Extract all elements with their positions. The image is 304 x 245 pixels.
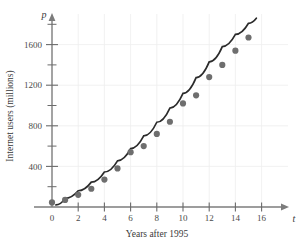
regression-curve (56, 18, 256, 205)
data-point (193, 92, 199, 98)
y-tick-label: 1200 (24, 80, 43, 90)
gridlines (52, 14, 288, 207)
data-point (88, 186, 94, 192)
y-axis-title: Internet users (millions) (5, 70, 16, 161)
data-point (154, 131, 160, 137)
data-point (101, 176, 107, 182)
data-points (49, 34, 252, 205)
data-point (114, 165, 120, 171)
x-tick-label: 8 (155, 213, 160, 223)
x-tick-label: 4 (102, 213, 107, 223)
data-point (128, 149, 134, 155)
data-point (62, 197, 68, 203)
x-tick-label: 6 (128, 213, 133, 223)
x-tick-label: 12 (205, 213, 214, 223)
x-tick-label: 10 (179, 213, 189, 223)
x-tick-label: 0 (50, 213, 55, 223)
x-tick-labels: 0 2 4 6 8 10 12 14 16 (50, 213, 267, 223)
y-tick-label: 400 (29, 162, 43, 172)
x-tick-label: 16 (257, 213, 267, 223)
y-tick-label: 800 (29, 121, 43, 131)
data-point (206, 74, 212, 80)
chart-figure: 400 800 1200 1600 0 2 4 6 8 10 12 14 16 … (0, 0, 304, 245)
data-point (232, 48, 238, 54)
axes (34, 13, 289, 210)
x-tick-label: 14 (231, 213, 241, 223)
y-tick-labels: 400 800 1200 1600 (24, 40, 43, 172)
y-axis-arrow (49, 13, 56, 21)
data-point (49, 199, 55, 205)
data-point (167, 119, 173, 125)
y-tick-label: 1600 (24, 40, 43, 50)
x-axis-title: Years after 1995 (126, 229, 189, 239)
x-axis-arrow (281, 204, 289, 211)
data-point (180, 100, 186, 106)
data-point (245, 34, 251, 40)
x-axis-variable-label: t (293, 213, 296, 224)
data-point (75, 192, 81, 198)
internet-users-scatter-chart: 400 800 1200 1600 0 2 4 6 8 10 12 14 16 … (0, 0, 304, 245)
x-tick-label: 2 (76, 213, 81, 223)
data-point (141, 143, 147, 149)
y-axis-variable-label: p (41, 9, 47, 20)
data-point (219, 62, 225, 68)
